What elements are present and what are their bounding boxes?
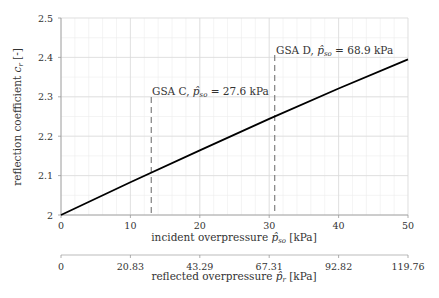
annotation-gsa-c-label: GSA C, p̂so = 27.6 kPa: [152, 85, 269, 99]
x-axis-label: incident overpressure p̂so [kPa]: [151, 231, 316, 245]
secondary-x-axis-label: reflected overpressure p̂r [kPa]: [151, 270, 316, 284]
secondary-x-tick-label: 119.76: [391, 261, 424, 272]
chart: 020.8343.2967.3192.82119.760102030405022…: [0, 0, 439, 298]
y-tick-label: 2.2: [38, 131, 53, 142]
y-tick-label: 2.1: [38, 170, 53, 181]
x-tick-label: 10: [124, 220, 136, 231]
annotation-gsa-d-label: GSA D, p̂so = 68.9 kPa: [276, 44, 393, 58]
y-tick-label: 2.5: [38, 13, 53, 24]
data-series: [61, 59, 408, 215]
x-tick-label: 20: [194, 220, 206, 231]
y-tick-label: 2: [47, 210, 53, 221]
x-tick-label: 0: [58, 220, 64, 231]
y-tick-label: 2.4: [38, 52, 53, 63]
series-line: [61, 59, 408, 215]
x-tick-label: 50: [402, 220, 414, 231]
x-tick-label: 30: [263, 220, 275, 231]
secondary-x-tick-label: 20.83: [117, 261, 144, 272]
annotations: [151, 55, 275, 215]
y-tick-label: 2.3: [38, 91, 53, 102]
secondary-x-tick-label: 92.82: [325, 261, 352, 272]
y-axis-label: reflection coefficient cr [-]: [11, 48, 25, 186]
x-tick-label: 40: [333, 220, 345, 231]
secondary-x-tick-label: 0: [58, 261, 64, 272]
